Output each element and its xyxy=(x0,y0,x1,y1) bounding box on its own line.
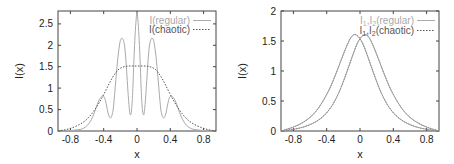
right-x-axis-label: x xyxy=(357,148,363,160)
figure: 0 0.5 1 1.5 2 2.5 -0.8 -0.4 0 0.4 0.8 x … xyxy=(0,0,454,164)
left-ytick-1: 0.5 xyxy=(39,104,53,115)
left-series-regular xyxy=(58,12,216,131)
right-series-curve-right-solid xyxy=(281,35,439,131)
left-xtick-1: -0.4 xyxy=(95,134,113,145)
right-ytick-0: 0 xyxy=(270,126,276,137)
left-y-tick-labels: 0 0.5 1 1.5 2 2.5 xyxy=(39,18,53,136)
left-y-ticks xyxy=(58,24,216,131)
left-plot-frame xyxy=(58,11,216,131)
right-ytick-2: 1 xyxy=(270,66,276,77)
left-ytick-5: 2.5 xyxy=(39,18,53,29)
right-series-curve-left xyxy=(281,35,439,131)
left-x-axis-label: x xyxy=(134,148,140,160)
right-y-tick-labels: 0 0.5 1 1.5 2 xyxy=(262,6,276,137)
right-legend: I1,I2(regular) I1,I2(chaotic) xyxy=(359,15,435,37)
left-ytick-3: 1.5 xyxy=(39,61,53,72)
right-xtick-3: 0.4 xyxy=(386,134,400,145)
right-ytick-4: 2 xyxy=(270,6,276,17)
right-series-curve-right xyxy=(281,35,439,131)
left-xtick-4: 0.8 xyxy=(197,134,211,145)
left-ytick-4: 2 xyxy=(47,40,53,51)
right-x-tick-labels: -0.8 -0.4 0 0.4 0.8 xyxy=(285,134,434,145)
left-series-chaotic xyxy=(58,66,216,131)
left-ytick-0: 0 xyxy=(47,126,53,137)
left-legend-chaotic-label: I(chaotic) xyxy=(149,24,190,35)
right-chart: 0 0.5 1 1.5 2 -0.8 -0.4 0 0.4 0.8 x I(x) xyxy=(236,6,439,161)
right-legend-chaotic-label: I1,I2(chaotic) xyxy=(359,25,414,37)
left-legend: I(regular) I(chaotic) xyxy=(149,15,211,35)
left-xtick-0: -0.8 xyxy=(62,134,80,145)
left-xtick-3: 0.4 xyxy=(163,134,177,145)
right-ytick-3: 1.5 xyxy=(262,36,276,47)
left-x-tick-labels: -0.8 -0.4 0 0.4 0.8 xyxy=(62,134,211,145)
right-xtick-2: 0 xyxy=(357,134,363,145)
left-xtick-2: 0 xyxy=(134,134,140,145)
right-series-curve-left-solid xyxy=(281,35,439,131)
left-ytick-2: 1 xyxy=(47,83,53,94)
right-y-axis-label: I(x) xyxy=(236,63,248,79)
right-xtick-1: -0.4 xyxy=(318,134,336,145)
left-y-axis-label: I(x) xyxy=(13,63,25,79)
right-ytick-1: 0.5 xyxy=(262,96,276,107)
right-xtick-0: -0.8 xyxy=(285,134,303,145)
left-chart: 0 0.5 1 1.5 2 2.5 -0.8 -0.4 0 0.4 0.8 x … xyxy=(13,11,216,160)
right-xtick-4: 0.8 xyxy=(420,134,434,145)
